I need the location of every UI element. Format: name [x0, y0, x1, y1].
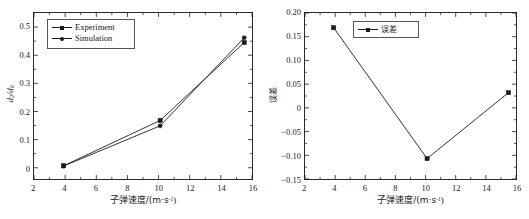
chart-panel-right: −0.15−0.10−0.0500.050.100.150.20 2468101…	[265, 0, 529, 219]
y-axis-title-right: 误差	[269, 73, 278, 117]
chart-panel-left: 00.10.20.30.40.5 246810121416 d2/d0 子弹速度…	[0, 0, 265, 219]
y-tick-label: 0.4	[0, 50, 30, 59]
x-tick-label: 14	[482, 184, 491, 193]
y-axis-title-left: d2/d0	[6, 72, 16, 116]
legend-item[interactable]: 误差	[358, 24, 414, 35]
legend-label: 误差	[381, 26, 397, 34]
data-point	[425, 157, 429, 161]
x-tick-label: 6	[363, 184, 367, 193]
x-tick-label: 8	[125, 184, 129, 193]
data-point	[242, 36, 246, 40]
y-tick-label: −0.10	[265, 152, 301, 161]
x-axis-title-right: 子弹速度/(m·s-1)	[304, 196, 517, 205]
x-tick-label: 4	[62, 184, 66, 193]
y-tick-label: −0.05	[265, 128, 301, 137]
data-point	[506, 91, 510, 95]
x-tick-label: 2	[31, 184, 35, 193]
figure-root: 00.10.20.30.40.5 246810121416 d2/d0 子弹速度…	[0, 0, 529, 219]
x-axis-title-left-cjk: 子弹速度/(m·s	[110, 195, 169, 205]
y-axis-title-left-text: d2/d0	[5, 85, 15, 102]
legend-label: Experiment	[75, 23, 115, 32]
legend-marker-circle-icon	[52, 34, 72, 43]
x-tick-label: 10	[154, 184, 163, 193]
x-tick-label: 2	[302, 184, 306, 193]
data-point	[242, 40, 246, 44]
x-axis-title-left-suffix: )	[173, 195, 176, 205]
x-tick-label: 16	[513, 184, 522, 193]
series-line-Simulation	[64, 38, 245, 166]
legend-right[interactable]: 误差	[353, 21, 419, 38]
data-point	[158, 124, 162, 128]
y-tick-label: 0.1	[0, 136, 30, 145]
y-tick-label: 0.20	[265, 8, 301, 17]
legend-item[interactable]: Experiment	[52, 22, 130, 33]
x-tick-label: 4	[332, 184, 336, 193]
series-line-误差	[334, 28, 509, 159]
legend-left[interactable]: ExperimentSimulation	[47, 19, 135, 49]
x-tick-label: 14	[217, 184, 226, 193]
y-tick-label: −0.15	[265, 176, 301, 185]
legend-marker-square-icon	[358, 25, 378, 34]
x-tick-label: 8	[393, 184, 397, 193]
legend-label: Simulation	[75, 34, 112, 43]
x-tick-label: 6	[94, 184, 98, 193]
x-tick-label: 10	[421, 184, 430, 193]
y-tick-label: 0.15	[265, 32, 301, 41]
x-axis-title-right-suffix: )	[441, 195, 444, 205]
series-line-Experiment	[64, 43, 245, 166]
legend-item[interactable]: Simulation	[52, 33, 130, 44]
x-tick-label: 12	[186, 184, 195, 193]
data-point	[62, 164, 66, 168]
legend-marker-square-icon	[52, 23, 72, 32]
x-tick-label: 16	[249, 184, 258, 193]
y-tick-label: 0.5	[0, 22, 30, 31]
y-tick-label: 0.10	[265, 56, 301, 65]
x-axis-title-right-cjk: 子弹速度/(m·s	[377, 195, 436, 205]
y-tick-label: 0	[0, 164, 30, 173]
x-tick-label: 12	[452, 184, 461, 193]
data-point	[332, 26, 336, 30]
y-axis-title-right-text: 误差	[269, 87, 278, 103]
data-point	[158, 118, 162, 122]
x-axis-title-left: 子弹速度/(m·s-1)	[33, 196, 253, 205]
